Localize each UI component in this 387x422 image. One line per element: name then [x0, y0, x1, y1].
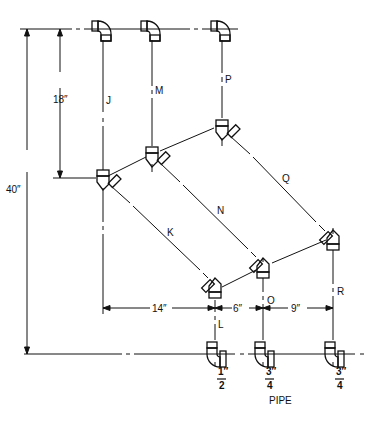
elbow-90-P-top [211, 21, 230, 41]
svg-text:3″: 3″ [266, 366, 277, 377]
pipe-label-Q: Q [282, 173, 290, 184]
pipe-label-P: P [225, 74, 232, 85]
elbow-90-J-top [92, 21, 111, 41]
pipe-caption: PIPE [269, 395, 292, 406]
dim-total-height: 40″ [6, 184, 21, 195]
dim-right-span: 9″ [291, 303, 301, 314]
pipe-label-K: K [167, 227, 174, 238]
pipe-size-R: 3″ 4 [335, 366, 347, 391]
elbow-45-L [202, 278, 221, 298]
riser-J-lower [103, 138, 222, 314]
svg-text:4: 4 [267, 380, 273, 391]
pipe-size-L: 1″ 2 [217, 366, 229, 391]
dim-upper-height: 18″ [53, 94, 68, 105]
elbow-45-R [320, 230, 339, 250]
dim-left-span: 14″ [152, 303, 167, 314]
dim-mid-span: 6″ [233, 303, 243, 314]
elbow-45-O [250, 258, 269, 278]
svg-text:1″: 1″ [218, 366, 229, 377]
piping-diagram: 40″ 18″ 14″ 6″ 9″ J M P K N Q L O R 1″ 2… [0, 0, 387, 422]
svg-text:3″: 3″ [336, 366, 347, 377]
svg-text:2: 2 [219, 380, 225, 391]
pipe-label-O: O [267, 295, 275, 306]
elbow-45-P [216, 120, 240, 140]
pipe-label-N: N [217, 205, 224, 216]
pipe-size-O: 3″ 4 [265, 366, 277, 391]
pipe-label-J: J [106, 95, 111, 106]
elbow-45-M [146, 147, 170, 167]
riser-lines-upper [103, 40, 222, 170]
elbow-90-M-top [141, 21, 160, 41]
elbow-45-J [97, 170, 121, 190]
pipe-label-L: L [218, 319, 224, 330]
dimension-40in [25, 29, 30, 354]
pipe-label-M: M [155, 85, 163, 96]
svg-text:4: 4 [337, 380, 343, 391]
pipe-label-R: R [337, 286, 344, 297]
